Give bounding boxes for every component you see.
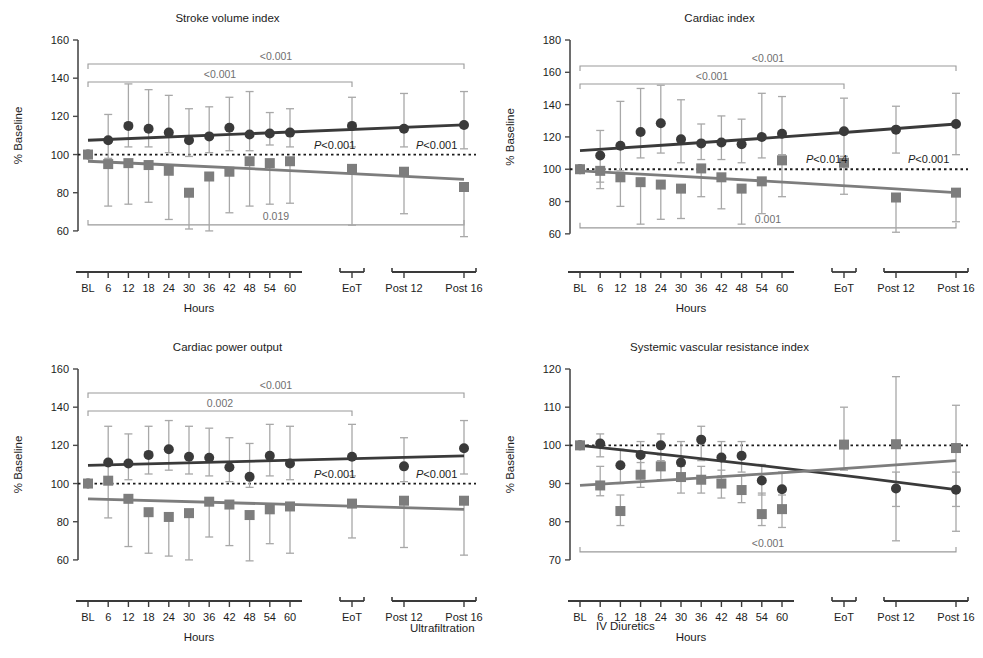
y-tick-label: 90 — [549, 478, 561, 490]
x-axis-title: Hours — [676, 631, 707, 643]
inline-pvalue-post: P<0.001 — [908, 153, 949, 165]
data-point-ultrafiltration — [595, 151, 605, 161]
chart-svg-cardiac-index: Cardiac index6080100120140160180% Baseli… — [492, 0, 983, 329]
x-tick-label: 24 — [655, 611, 667, 623]
data-point-ultrafiltration — [676, 458, 686, 468]
series-errorbars-ultrafiltration — [104, 84, 468, 158]
pvalue-bracket-label: <0.001 — [204, 68, 237, 80]
data-point-ultrafiltration — [839, 126, 849, 136]
data-point-iv-diuretics — [184, 188, 194, 198]
y-tick-label: 120 — [543, 131, 561, 143]
y-tick-label: 60 — [57, 225, 69, 237]
x-tick-label: 30 — [183, 282, 195, 294]
data-point-iv-diuretics — [245, 156, 255, 166]
legend-ultrafiltration: Ultrafiltration — [410, 622, 475, 634]
data-point-iv-diuretics — [891, 439, 901, 449]
x-tick-label: 48 — [735, 611, 747, 623]
data-point-iv-diuretics — [777, 155, 787, 165]
data-point-ultrafiltration — [399, 124, 409, 134]
data-point-iv-diuretics — [459, 496, 469, 506]
y-tick-label: 140 — [51, 72, 69, 84]
data-point-ultrafiltration — [656, 440, 666, 450]
pvalue-bracket-label: <0.001 — [260, 50, 293, 62]
data-point-ultrafiltration — [595, 438, 605, 448]
data-point-ultrafiltration — [757, 475, 767, 485]
data-point-ultrafiltration — [696, 138, 706, 148]
data-point-ultrafiltration — [123, 121, 133, 131]
x-tick-label: Post 12 — [877, 282, 914, 294]
chart-title: Cardiac index — [684, 12, 755, 24]
data-point-ultrafiltration — [777, 484, 787, 494]
y-tick-label: 140 — [543, 99, 561, 111]
x-tick-label: BL — [81, 282, 94, 294]
y-tick-label: 70 — [549, 554, 561, 566]
data-point-ultrafiltration — [636, 450, 646, 460]
data-point-ultrafiltration — [204, 131, 214, 141]
chart-svg-cardiac-power-output: Cardiac power output6080100120140160% Ba… — [0, 329, 491, 658]
data-point-iv-diuretics — [696, 163, 706, 173]
pvalue-bracket-label: 0.019 — [263, 210, 289, 222]
data-point-ultrafiltration — [757, 132, 767, 142]
data-point-iv-diuretics — [636, 177, 646, 187]
data-point-ultrafiltration — [636, 127, 646, 137]
figure-root: Stroke volume index6080100120140160% Bas… — [0, 0, 983, 658]
data-point-ultrafiltration — [285, 459, 295, 469]
series-errorbars-ultrafiltration — [104, 421, 468, 488]
data-point-ultrafiltration — [245, 472, 255, 482]
data-point-ultrafiltration — [459, 120, 469, 130]
x-tick-label: 48 — [243, 611, 255, 623]
x-axis-title: Hours — [184, 302, 215, 314]
x-tick-label: EoT — [342, 611, 362, 623]
legend-iv-diuretics: IV Diuretics — [596, 620, 655, 632]
x-tick-label: Post 12 — [385, 282, 422, 294]
x-tick-label: 54 — [756, 282, 768, 294]
x-tick-label: 24 — [163, 282, 175, 294]
x-tick-label: 6 — [597, 282, 603, 294]
data-point-ultrafiltration — [204, 453, 214, 463]
data-point-ultrafiltration — [716, 453, 726, 463]
x-tick-label: 48 — [243, 282, 255, 294]
x-tick-label: 18 — [142, 611, 154, 623]
data-point-ultrafiltration — [459, 443, 469, 453]
data-point-ultrafiltration — [285, 128, 295, 138]
y-tick-label: 100 — [51, 478, 69, 490]
data-point-ultrafiltration — [103, 458, 113, 468]
data-point-ultrafiltration — [224, 462, 234, 472]
data-point-iv-diuretics — [164, 166, 174, 176]
x-tick-label: 24 — [163, 611, 175, 623]
data-point-ultrafiltration — [164, 444, 174, 454]
pvalue-bracket-label: 0.002 — [207, 397, 233, 409]
data-point-ultrafiltration — [891, 125, 901, 135]
data-point-iv-diuretics — [737, 184, 747, 194]
series-markers-iv-diuretics — [575, 155, 961, 202]
y-tick-label: 80 — [57, 187, 69, 199]
x-tick-label: Post 12 — [877, 611, 914, 623]
x-tick-label: EoT — [834, 611, 854, 623]
data-point-iv-diuretics — [615, 172, 625, 182]
data-point-iv-diuretics — [716, 172, 726, 182]
data-point-ultrafiltration — [777, 129, 787, 139]
y-tick-label: 160 — [51, 34, 69, 46]
data-point-iv-diuretics — [615, 506, 625, 516]
inline-pvalue-post: P<0.001 — [416, 139, 457, 151]
pvalue-bracket-label: <0.001 — [696, 70, 729, 82]
chart-panel-cardiac-index: Cardiac index6080100120140160180% Baseli… — [492, 0, 983, 329]
chart-svg-systemic-vascular-resistance-index: Systemic vascular resistance index708090… — [492, 329, 983, 658]
x-tick-label: BL — [81, 611, 94, 623]
data-point-iv-diuretics — [123, 494, 133, 504]
data-point-ultrafiltration — [347, 452, 357, 462]
data-point-ultrafiltration — [716, 138, 726, 148]
x-tick-label: EoT — [834, 282, 854, 294]
data-point-iv-diuretics — [777, 504, 787, 514]
y-tick-label: 120 — [51, 110, 69, 122]
y-tick-label: 160 — [51, 363, 69, 375]
x-tick-label: 18 — [142, 282, 154, 294]
chart-panel-cardiac-power-output: Cardiac power output6080100120140160% Ba… — [0, 329, 491, 658]
data-point-iv-diuretics — [103, 476, 113, 486]
x-tick-label: 60 — [776, 282, 788, 294]
data-point-iv-diuretics — [399, 167, 409, 177]
y-axis-title: % Baseline — [12, 107, 24, 165]
data-point-ultrafiltration — [245, 130, 255, 140]
x-tick-label: 24 — [655, 282, 667, 294]
data-point-ultrafiltration — [737, 139, 747, 149]
